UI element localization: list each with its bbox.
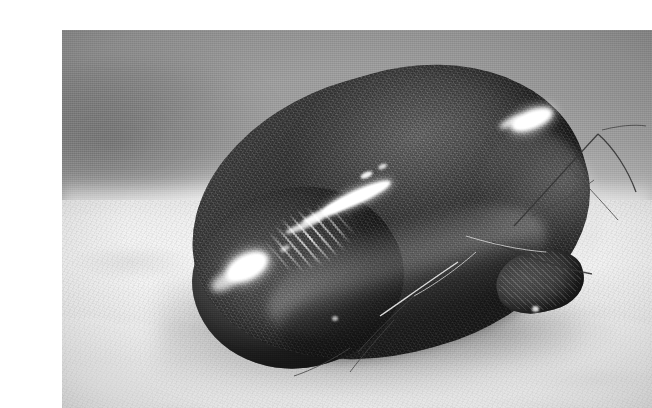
engorged-tick bbox=[180, 68, 600, 368]
glint-5 bbox=[332, 316, 338, 321]
glint-4 bbox=[532, 306, 539, 312]
photograph: Close-up black and white photograph of a… bbox=[62, 30, 652, 408]
